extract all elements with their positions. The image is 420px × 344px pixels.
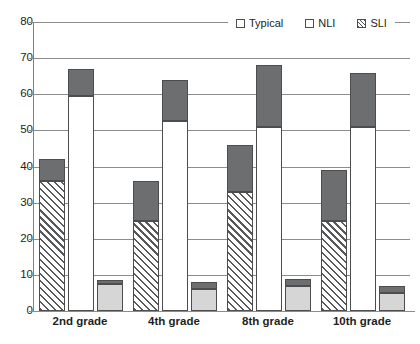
bar-segment-sli bbox=[227, 192, 253, 311]
bar-nli-2nd-grade bbox=[68, 69, 94, 311]
bar-segment-top bbox=[350, 73, 376, 127]
legend-entry-nli: NLI bbox=[305, 18, 335, 29]
legend-swatch-sli-icon bbox=[357, 19, 366, 28]
bar-nli-4th-grade bbox=[162, 80, 188, 311]
bar-nli-10th-grade bbox=[350, 73, 376, 311]
x-axis-group-label: 4th grade bbox=[127, 315, 221, 327]
bar-segment-nli bbox=[256, 127, 282, 311]
bar-typical-8th-grade bbox=[285, 279, 311, 312]
legend-entry-typical: Typical bbox=[236, 18, 283, 29]
bar-sli-8th-grade bbox=[227, 145, 253, 311]
bar-segment-sli bbox=[39, 181, 65, 311]
bar-segment-nli bbox=[350, 127, 376, 311]
bar-segment-sli bbox=[133, 221, 159, 311]
x-axis-group-label: 8th grade bbox=[221, 315, 315, 327]
legend-swatch-nli-icon bbox=[305, 19, 314, 28]
bar-segment-top bbox=[39, 159, 65, 181]
bar-segment-top bbox=[379, 286, 405, 293]
y-axis: 01020304050607080 bbox=[0, 0, 33, 344]
bar-segment-top bbox=[97, 280, 123, 284]
chart-legend: Typical NLI SLI bbox=[228, 12, 395, 34]
bar-nli-8th-grade bbox=[256, 65, 282, 311]
bar-sli-10th-grade bbox=[321, 170, 347, 311]
bar-chart: Typical NLI SLI 01020304050607080 2nd gr… bbox=[0, 0, 420, 344]
x-axis-group-label: 10th grade bbox=[315, 315, 409, 327]
bar-segment-typical bbox=[191, 289, 217, 311]
bar-segment-top bbox=[162, 80, 188, 122]
bar-segment-top bbox=[321, 170, 347, 221]
gridline bbox=[34, 58, 410, 59]
bar-segment-nli bbox=[162, 121, 188, 311]
bar-segment-typical bbox=[379, 293, 405, 311]
bar-sli-4th-grade bbox=[133, 181, 159, 311]
x-axis-group-label: 2nd grade bbox=[33, 315, 127, 327]
legend-label-nli: NLI bbox=[318, 18, 335, 29]
bar-segment-typical bbox=[97, 284, 123, 311]
bar-segment-top bbox=[68, 69, 94, 96]
x-axis-baseline bbox=[33, 311, 415, 312]
bar-typical-10th-grade bbox=[379, 286, 405, 311]
bar-typical-2nd-grade bbox=[97, 280, 123, 311]
legend-entry-sli: SLI bbox=[357, 18, 387, 29]
plot-area bbox=[33, 22, 410, 311]
legend-label-typical: Typical bbox=[249, 18, 283, 29]
legend-swatch-typical-icon bbox=[236, 19, 245, 28]
bar-segment-nli bbox=[68, 96, 94, 311]
bar-segment-top bbox=[227, 145, 253, 192]
bar-segment-sli bbox=[321, 221, 347, 311]
legend-label-sli: SLI bbox=[370, 18, 387, 29]
bar-segment-top bbox=[191, 282, 217, 289]
bar-segment-top bbox=[133, 181, 159, 221]
bar-segment-top bbox=[256, 65, 282, 126]
bar-typical-4th-grade bbox=[191, 282, 217, 311]
bar-sli-2nd-grade bbox=[39, 159, 65, 311]
bar-segment-top bbox=[285, 279, 311, 286]
bar-segment-typical bbox=[285, 286, 311, 311]
